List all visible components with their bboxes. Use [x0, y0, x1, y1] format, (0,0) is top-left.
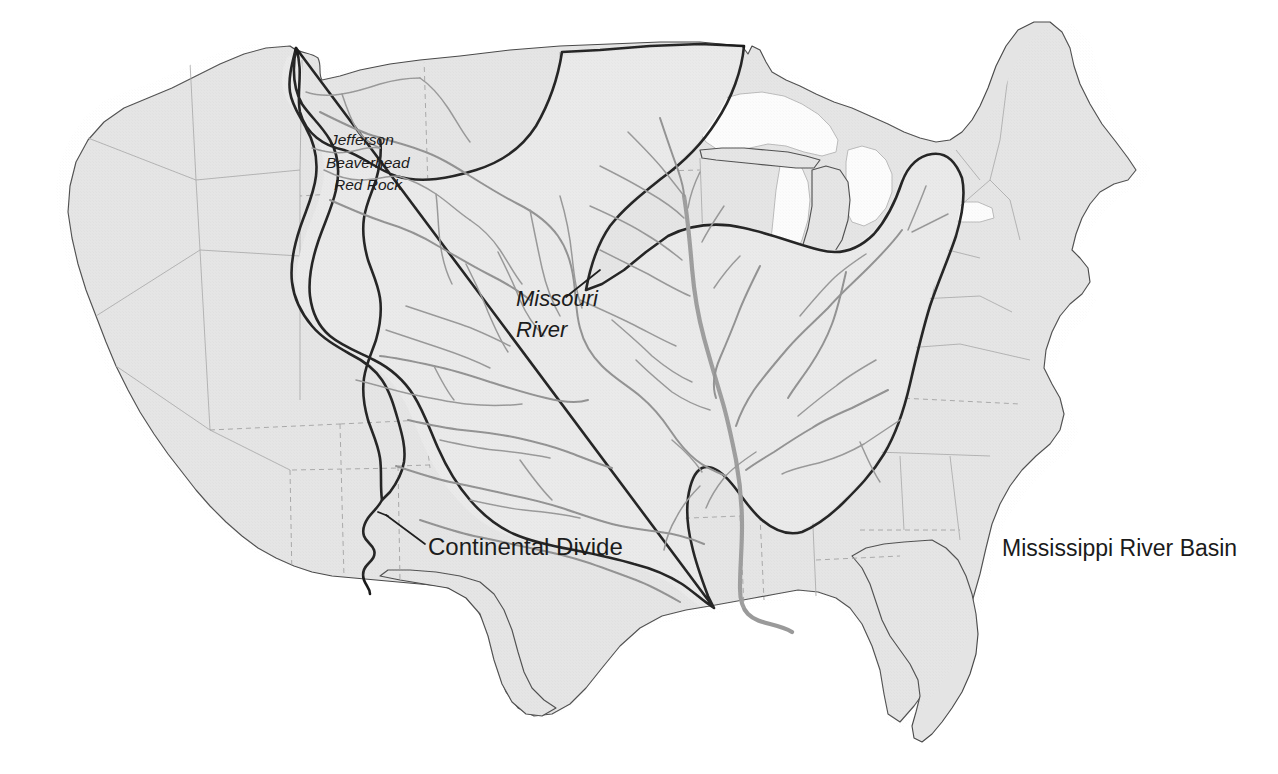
us-basin-map: Jefferson Beaverhead Red Rock Missouri R… — [0, 0, 1278, 774]
scan-grain-overlay — [0, 0, 1278, 774]
label-mississippi-river-basin: Mississippi River Basin — [1002, 535, 1237, 561]
map-root: Jefferson Beaverhead Red Rock Missouri R… — [0, 0, 1278, 774]
